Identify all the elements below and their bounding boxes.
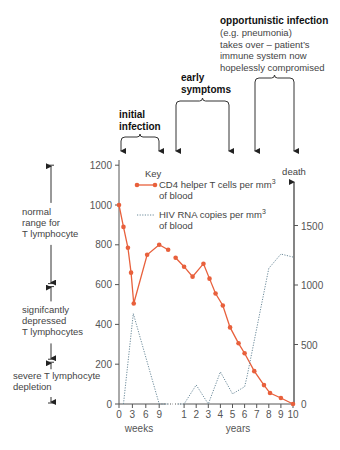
range-label: range for: [22, 217, 60, 228]
range-label: T lymphocytes: [22, 326, 83, 337]
y-tick-label: 600: [95, 279, 112, 290]
cd4-data-point: [228, 325, 233, 330]
cd4-data-point: [129, 270, 134, 275]
x-tick-label-years: 4: [218, 409, 224, 420]
phase-label-opportunistic-infection: opportunistic infection: [220, 15, 328, 26]
x-tick-label-years: 5: [230, 409, 236, 420]
x-tick-label-weeks: 3: [130, 409, 136, 420]
cd4-data-point: [121, 225, 126, 230]
phase-description: hopelessly compromised: [220, 62, 325, 73]
svg-text:of blood: of blood: [159, 190, 193, 201]
y-tick-label: 200: [95, 359, 112, 370]
phase-description: (e.g. pneumonia): [220, 27, 292, 38]
cd4-data-point: [166, 247, 171, 252]
x-tick-label-years: 7: [254, 409, 260, 420]
cd4-data-point: [213, 291, 218, 296]
cd4-data-point: [126, 245, 131, 250]
cd4-data-point: [236, 341, 241, 346]
right-y-tick-label: 1500: [301, 221, 324, 232]
x-tick-label-years: 10: [287, 409, 299, 420]
x-tick-label-years: 1: [181, 409, 187, 420]
range-label: signifcantly: [22, 304, 69, 315]
phase-label-early-symptoms: early: [181, 72, 205, 83]
range-label: depressed: [22, 315, 66, 326]
range-label: T lymphocyte: [22, 228, 78, 239]
svg-text:0: 0: [301, 399, 307, 410]
phase-label-initial-infection: infection: [119, 121, 161, 132]
cd4-data-point: [173, 255, 178, 260]
cd4-data-point: [145, 252, 150, 257]
phase-label-early-symptoms: symptoms: [181, 84, 231, 95]
phase-label-initial-infection: initial: [119, 109, 145, 120]
chart-legend: KeyCD4 helper T cells per mm3of bloodHIV…: [135, 168, 276, 231]
y-tick-label: 0: [106, 399, 112, 410]
cd4-data-point: [279, 396, 284, 401]
cd4-line: [176, 258, 293, 404]
x-tick-label-years: 3: [206, 409, 212, 420]
range-label: normal: [22, 206, 51, 217]
legend-entry-label: HIV RNA copies per mm3: [159, 208, 266, 220]
y-tick-label: 1200: [90, 160, 113, 171]
cd4-data-point: [157, 243, 162, 248]
y-tick-label: 800: [95, 239, 112, 250]
x-tick-label-weeks: 0: [116, 409, 122, 420]
y-tick-label: 400: [95, 319, 112, 330]
x-axis-label-weeks: weeks: [124, 423, 153, 434]
hiv-progression-chart: normalrange forT lymphocytesignifcantlyd…: [0, 0, 340, 450]
phase-description: immune system now: [220, 50, 307, 61]
legend-entry-label: CD4 helper T cells per mm3: [159, 178, 276, 190]
cd4-data-point: [182, 264, 187, 269]
cd4-data-point: [190, 274, 195, 279]
hiv-rna-line: [178, 254, 293, 404]
cd4-data-point: [242, 351, 247, 356]
cd4-data-point: [268, 391, 273, 396]
cd4-data-point: [262, 383, 267, 388]
x-tick-label-years: 2: [193, 409, 199, 420]
cd4-data-point: [252, 369, 257, 374]
cd4-data-point: [207, 276, 212, 281]
chart-series: [117, 203, 296, 407]
cd4-data-point: [291, 402, 296, 407]
cd4-data-point: [201, 261, 206, 266]
phase-description: takes over – patient’s: [220, 39, 310, 50]
hiv-rna-line: [123, 314, 168, 404]
cd4-data-point: [117, 203, 122, 208]
lymphocyte-range-annotations: normalrange forT lymphocytesignifcantlyd…: [13, 165, 100, 403]
x-tick-label-years: 9: [278, 409, 284, 420]
range-label: severe T lymphocyte: [13, 370, 100, 381]
right-y-tick-label: 1000: [301, 280, 324, 291]
x-tick-label-years: 8: [266, 409, 272, 420]
death-label: death: [282, 166, 306, 177]
x-tick-label-weeks: 9: [156, 409, 162, 420]
legend-title: Key: [145, 168, 162, 179]
x-axis-label-years: years: [226, 423, 250, 434]
right-y-tick-label: 500: [301, 340, 318, 351]
x-tick-label-years: 6: [242, 409, 248, 420]
cd4-data-point: [131, 301, 136, 306]
range-label: depletion: [13, 381, 52, 392]
phase-annotations: initialinfectionearlysymptomsopportunist…: [119, 15, 328, 151]
cd4-data-point: [221, 303, 226, 308]
svg-text:of blood: of blood: [159, 220, 193, 231]
y-tick-label: 1000: [90, 200, 113, 211]
x-tick-label-weeks: 6: [143, 409, 149, 420]
